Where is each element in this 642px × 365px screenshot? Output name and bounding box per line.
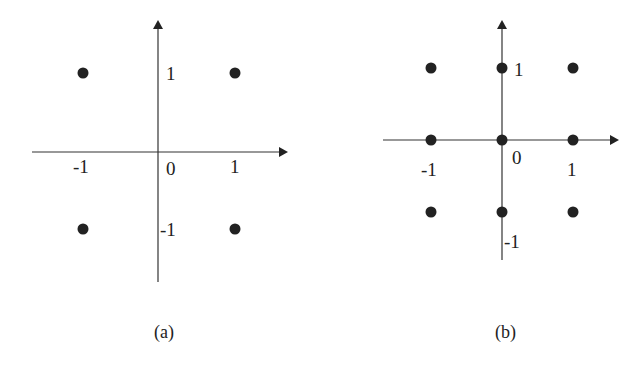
x-neg-label: -1 bbox=[421, 159, 437, 180]
y-pos-label: 1 bbox=[166, 63, 176, 84]
x-pos-label: 1 bbox=[230, 156, 240, 177]
y-pos-label: 1 bbox=[514, 59, 524, 80]
y-neg-label: -1 bbox=[504, 231, 520, 252]
x-axis-arrow-icon bbox=[610, 135, 619, 145]
point bbox=[426, 63, 437, 74]
point bbox=[426, 207, 437, 218]
diagram-a: 1 -1 0 1 -1 (a) bbox=[32, 20, 288, 343]
point bbox=[497, 63, 508, 74]
origin-label: 0 bbox=[512, 147, 522, 168]
point bbox=[497, 135, 508, 146]
point bbox=[568, 135, 579, 146]
x-pos-label: 1 bbox=[567, 159, 577, 180]
point bbox=[230, 68, 241, 79]
point bbox=[78, 224, 89, 235]
diagram-b: 1 -1 0 1 -1 (b) bbox=[383, 20, 619, 343]
caption-a: (a) bbox=[154, 322, 174, 343]
point bbox=[78, 68, 89, 79]
x-axis-arrow-icon bbox=[279, 147, 288, 157]
point bbox=[426, 135, 437, 146]
y-axis-arrow-icon bbox=[497, 20, 507, 29]
point bbox=[568, 207, 579, 218]
x-neg-label: -1 bbox=[73, 156, 89, 177]
y-axis-arrow-icon bbox=[153, 20, 163, 29]
point bbox=[230, 224, 241, 235]
constellation-figure: 1 -1 0 1 -1 (a) 1 -1 0 1 -1 (b) bbox=[0, 0, 642, 365]
y-neg-label: -1 bbox=[160, 219, 176, 240]
caption-b: (b) bbox=[495, 322, 516, 343]
point bbox=[568, 63, 579, 74]
point bbox=[497, 207, 508, 218]
origin-label: 0 bbox=[166, 158, 176, 179]
